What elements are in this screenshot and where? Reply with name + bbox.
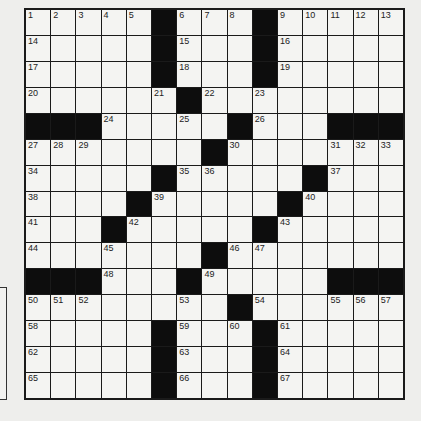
grid-cell[interactable]: 4 <box>102 10 126 35</box>
grid-cell[interactable] <box>202 36 226 61</box>
grid-cell[interactable] <box>354 192 378 217</box>
grid-cell[interactable] <box>228 347 252 372</box>
grid-cell[interactable] <box>379 62 403 87</box>
grid-cell[interactable] <box>127 243 151 268</box>
grid-cell[interactable] <box>76 347 100 372</box>
grid-cell[interactable] <box>278 114 302 139</box>
grid-cell[interactable] <box>102 140 126 165</box>
grid-cell[interactable] <box>379 321 403 346</box>
grid-cell[interactable] <box>202 192 226 217</box>
grid-cell[interactable]: 62 <box>26 347 50 372</box>
grid-cell[interactable] <box>127 166 151 191</box>
grid-cell[interactable]: 9 <box>278 10 302 35</box>
grid-cell[interactable]: 51 <box>51 295 75 320</box>
grid-cell[interactable]: 2 <box>51 10 75 35</box>
grid-cell[interactable] <box>379 192 403 217</box>
grid-cell[interactable] <box>253 269 277 294</box>
grid-cell[interactable] <box>127 269 151 294</box>
grid-cell[interactable] <box>354 217 378 242</box>
grid-cell[interactable] <box>379 347 403 372</box>
grid-cell[interactable]: 65 <box>26 373 50 398</box>
grid-cell[interactable]: 42 <box>127 217 151 242</box>
grid-cell[interactable] <box>177 217 201 242</box>
grid-cell[interactable] <box>354 36 378 61</box>
grid-cell[interactable] <box>76 36 100 61</box>
grid-cell[interactable] <box>354 373 378 398</box>
grid-cell[interactable]: 17 <box>26 62 50 87</box>
grid-cell[interactable]: 45 <box>102 243 126 268</box>
grid-cell[interactable] <box>278 140 302 165</box>
grid-cell[interactable] <box>51 62 75 87</box>
grid-cell[interactable] <box>303 347 327 372</box>
grid-cell[interactable] <box>328 88 352 113</box>
grid-cell[interactable] <box>328 373 352 398</box>
grid-cell[interactable]: 63 <box>177 347 201 372</box>
grid-cell[interactable]: 48 <box>102 269 126 294</box>
grid-cell[interactable] <box>354 88 378 113</box>
grid-cell[interactable] <box>328 192 352 217</box>
grid-cell[interactable]: 10 <box>303 10 327 35</box>
grid-cell[interactable] <box>253 192 277 217</box>
grid-cell[interactable] <box>76 321 100 346</box>
grid-cell[interactable] <box>76 373 100 398</box>
grid-cell[interactable] <box>127 347 151 372</box>
grid-cell[interactable]: 54 <box>253 295 277 320</box>
grid-cell[interactable]: 23 <box>253 88 277 113</box>
grid-cell[interactable] <box>253 166 277 191</box>
grid-cell[interactable] <box>102 192 126 217</box>
grid-cell[interactable]: 31 <box>328 140 352 165</box>
grid-cell[interactable] <box>328 321 352 346</box>
grid-cell[interactable]: 1 <box>26 10 50 35</box>
grid-cell[interactable] <box>51 36 75 61</box>
grid-cell[interactable] <box>354 243 378 268</box>
grid-cell[interactable] <box>152 295 176 320</box>
grid-cell[interactable] <box>202 347 226 372</box>
grid-cell[interactable]: 3 <box>76 10 100 35</box>
grid-cell[interactable]: 15 <box>177 36 201 61</box>
grid-cell[interactable] <box>228 192 252 217</box>
grid-cell[interactable] <box>303 295 327 320</box>
grid-cell[interactable] <box>202 321 226 346</box>
grid-cell[interactable]: 20 <box>26 88 50 113</box>
grid-cell[interactable] <box>354 347 378 372</box>
grid-cell[interactable]: 57 <box>379 295 403 320</box>
grid-cell[interactable] <box>51 373 75 398</box>
grid-cell[interactable]: 59 <box>177 321 201 346</box>
grid-cell[interactable]: 19 <box>278 62 302 87</box>
grid-cell[interactable] <box>102 321 126 346</box>
grid-cell[interactable] <box>303 62 327 87</box>
grid-cell[interactable] <box>102 295 126 320</box>
grid-cell[interactable] <box>76 217 100 242</box>
grid-cell[interactable] <box>328 62 352 87</box>
grid-cell[interactable] <box>202 114 226 139</box>
grid-cell[interactable]: 36 <box>202 166 226 191</box>
grid-cell[interactable] <box>354 321 378 346</box>
grid-cell[interactable]: 39 <box>152 192 176 217</box>
grid-cell[interactable] <box>228 166 252 191</box>
grid-cell[interactable] <box>379 373 403 398</box>
grid-cell[interactable] <box>76 88 100 113</box>
grid-cell[interactable] <box>303 114 327 139</box>
grid-cell[interactable] <box>127 140 151 165</box>
grid-cell[interactable] <box>202 295 226 320</box>
grid-cell[interactable] <box>51 192 75 217</box>
grid-cell[interactable] <box>379 88 403 113</box>
grid-cell[interactable] <box>51 243 75 268</box>
grid-cell[interactable]: 46 <box>228 243 252 268</box>
grid-cell[interactable] <box>127 114 151 139</box>
grid-cell[interactable]: 16 <box>278 36 302 61</box>
grid-cell[interactable]: 43 <box>278 217 302 242</box>
grid-cell[interactable] <box>228 62 252 87</box>
grid-cell[interactable]: 50 <box>26 295 50 320</box>
grid-cell[interactable]: 32 <box>354 140 378 165</box>
grid-cell[interactable] <box>152 114 176 139</box>
grid-cell[interactable] <box>379 217 403 242</box>
grid-cell[interactable]: 6 <box>177 10 201 35</box>
grid-cell[interactable]: 22 <box>202 88 226 113</box>
grid-cell[interactable] <box>278 269 302 294</box>
grid-cell[interactable] <box>76 166 100 191</box>
grid-cell[interactable]: 18 <box>177 62 201 87</box>
grid-cell[interactable] <box>303 36 327 61</box>
grid-cell[interactable]: 38 <box>26 192 50 217</box>
grid-cell[interactable]: 64 <box>278 347 302 372</box>
